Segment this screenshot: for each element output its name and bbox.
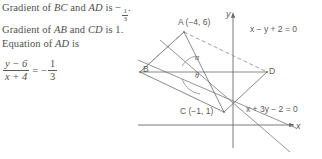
line1-prefix: Gradient of xyxy=(2,2,54,13)
line1-minus-sign: − xyxy=(115,2,121,13)
point-a-dot xyxy=(183,31,185,33)
angle-alpha-label: α xyxy=(195,53,199,62)
solution-text-block: Gradient of BC and AD is −13. Gradient o… xyxy=(2,1,154,83)
line1-segment-bc: BC xyxy=(54,2,68,13)
solution-line-1: Gradient of BC and AD is −13. xyxy=(2,1,154,23)
line2-prefix: Gradient of xyxy=(2,24,54,35)
textbook-figure-page: Gradient of BC and AD is −13. Gradient o… xyxy=(0,0,322,159)
segment-ad-dashed xyxy=(184,32,267,72)
line-equation-bc-label: x + 3y − 2 = 0 xyxy=(246,104,298,114)
angle-arc-theta xyxy=(182,79,200,94)
point-a-label: A (−4, 6) xyxy=(178,17,210,27)
coordinate-geometry-diagram: A (−4, 6) B C (−1, 1) D α θ x − y + 2 = … xyxy=(138,0,322,159)
line3-prefix: Equation of xyxy=(2,38,55,49)
solution-line-3: Equation of AD is xyxy=(2,37,154,51)
line3-suffix: is xyxy=(69,38,79,49)
equation-left-fraction: y − 6 x + 4 xyxy=(3,58,29,83)
line-equation-ad-label: x − y + 2 = 0 xyxy=(250,24,297,34)
point-d-label: D xyxy=(269,66,275,76)
line2-mid: and xyxy=(67,24,88,35)
equation-right-denominator: 3 xyxy=(48,70,57,83)
line1-segment-ad: AD xyxy=(88,2,102,13)
point-d-dot xyxy=(266,71,268,73)
line1-fraction-denominator: 3 xyxy=(122,15,128,23)
point-b-label: B xyxy=(143,64,149,74)
equation-right-minus-sign: − xyxy=(41,65,47,76)
point-c-label: C (−1, 1) xyxy=(180,106,213,116)
line2-suffix: is 1. xyxy=(103,24,124,35)
line2-segment-cd: CD xyxy=(88,24,103,35)
angle-theta-label: θ xyxy=(195,71,199,80)
equation-right-numerator: 1 xyxy=(48,58,57,70)
point-c-dot xyxy=(223,111,225,113)
equation-left-numerator: y − 6 xyxy=(3,58,29,70)
equation-right-fraction: 1 3 xyxy=(48,58,57,83)
line2-segment-ab: AB xyxy=(54,24,67,35)
x-axis-label: x xyxy=(296,121,301,131)
point-b-dot xyxy=(139,71,141,73)
solution-line-2: Gradient of AB and CD is 1. xyxy=(2,23,154,37)
y-axis-label: y xyxy=(226,9,231,19)
equation-left-denominator: x + 4 xyxy=(3,70,29,83)
line3-segment-ad: AD xyxy=(55,38,69,49)
line-x-minus-y-plus-2 xyxy=(160,40,290,152)
line1-mid: and xyxy=(68,2,89,13)
line1-period: . xyxy=(128,2,131,13)
equation-of-ad: y − 6 x + 4 = − 1 3 xyxy=(3,58,154,83)
equation-equals-sign: = xyxy=(32,65,38,76)
line1-suffix: is xyxy=(103,2,116,13)
